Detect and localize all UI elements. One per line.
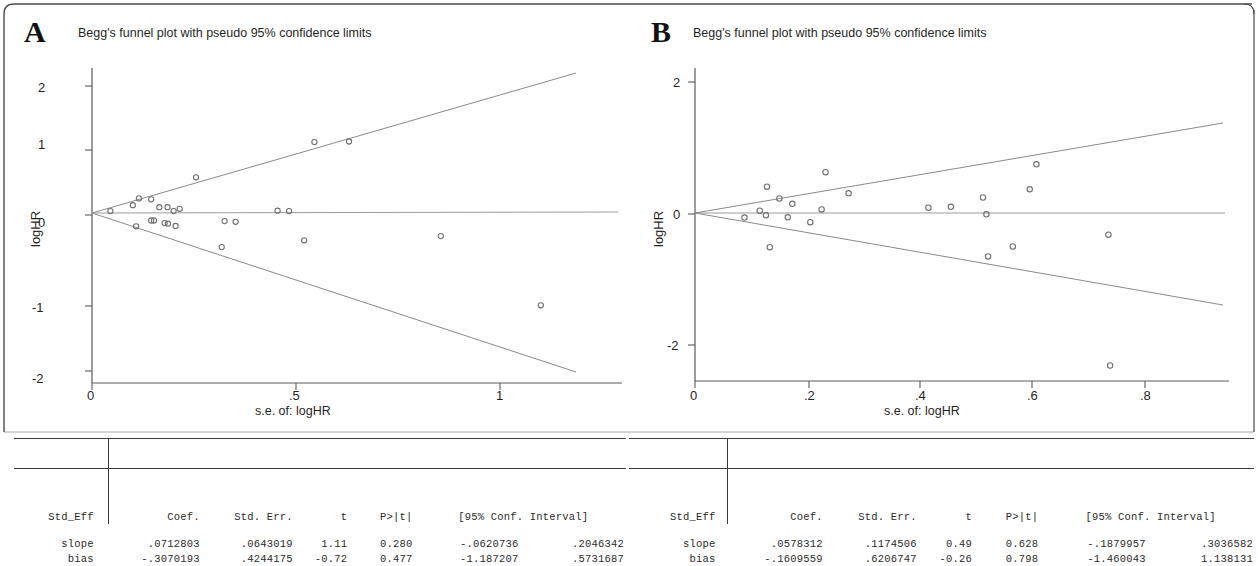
table-b-col-std-eff: Std_Eff <box>629 510 724 525</box>
data-point <box>233 219 238 224</box>
table-a-col-coef: Coef. <box>103 510 205 525</box>
table-a-r0-cihigh: .2046342 <box>524 537 629 552</box>
data-point <box>149 197 154 202</box>
table-a-r0-cilow: -.0620736 <box>418 537 524 552</box>
table-b-r1-coef: -.1609559 <box>724 552 827 566</box>
data-point <box>193 175 198 180</box>
data-point <box>438 234 443 239</box>
table-b: Std_Eff Coef. Std. Err. t P>|t| [95% Con… <box>629 438 1258 566</box>
data-point <box>808 220 813 225</box>
data-point <box>302 238 307 243</box>
table-b-midrule <box>629 468 1254 469</box>
panel-a: A Begg's funnel plot with pseudo 95% con… <box>0 0 629 525</box>
table-a-r1-cihigh: .5731687 <box>524 552 629 566</box>
table-b-col-p: P>|t| <box>977 510 1043 525</box>
table-row: bias -.1609559 .6206747 -0.26 0.798 -1.4… <box>629 552 1258 566</box>
table-b-col-ci: [95% Conf. Interval] <box>1043 510 1258 525</box>
data-point <box>785 215 790 220</box>
data-point <box>222 219 227 224</box>
table-b-r0-coef: .0578312 <box>724 537 827 552</box>
data-point <box>742 215 747 220</box>
table-b-r1-label: bias <box>629 552 724 566</box>
data-point <box>790 201 795 206</box>
table-a-col-t: t <box>298 510 353 525</box>
table-a-r0-stderr: .0643019 <box>205 537 298 552</box>
table-a-r0-coef: .0712803 <box>103 537 205 552</box>
table-a-midrule <box>14 468 626 469</box>
table-a-vertrule <box>108 439 109 524</box>
table-a-r1-coef: -.3070193 <box>103 552 205 566</box>
table-a-r1-label: bias <box>0 552 103 566</box>
data-point <box>157 205 162 210</box>
data-point <box>134 224 139 229</box>
data-point <box>312 140 317 145</box>
data-point <box>173 223 178 228</box>
data-point <box>767 245 772 250</box>
data-point <box>1027 187 1032 192</box>
table-a-col-ci: [95% Conf. Interval] <box>418 510 629 525</box>
table-b-r0-p: 0.628 <box>977 537 1043 552</box>
table-a-r1-cilow: -1.187207 <box>418 552 524 566</box>
table-b-vertrule <box>727 439 728 524</box>
table-a-col-p: P>|t| <box>352 510 417 525</box>
table-a-toprule <box>14 438 626 439</box>
table-a-r0-label: slope <box>0 537 103 552</box>
data-point <box>985 254 990 259</box>
data-point <box>948 204 953 209</box>
panel-b-markers <box>742 162 1113 369</box>
data-point <box>984 212 989 217</box>
table-row: slope .0712803 .0643019 1.11 0.280 -.062… <box>0 537 629 552</box>
data-point <box>538 303 543 308</box>
data-point <box>1107 363 1112 368</box>
table-b-col-std-err: Std. Err. <box>828 510 922 525</box>
data-point <box>819 207 824 212</box>
data-point <box>823 170 828 175</box>
table-b-r1-stderr: .6206747 <box>828 552 922 566</box>
table-row: bias -.3070193 .4244175 -0.72 0.477 -1.1… <box>0 552 629 566</box>
data-point <box>980 195 985 200</box>
table-a-header-row: Std_Eff Coef. Std. Err. t P>|t| [95% Con… <box>0 510 629 525</box>
table-b-r1-cihigh: 1.138131 <box>1151 552 1258 566</box>
table-b-spacer <box>629 525 1258 537</box>
data-point <box>926 205 931 210</box>
table-a-col-std-eff: Std_Eff <box>0 510 103 525</box>
table-row: slope .0578312 .1174506 0.49 0.628 -.187… <box>629 537 1258 552</box>
table-b-r1-p: 0.798 <box>977 552 1043 566</box>
data-point <box>1034 162 1039 167</box>
table-b-r0-cihigh: .3036582 <box>1151 537 1258 552</box>
table-b-col-coef: Coef. <box>724 510 827 525</box>
data-point <box>177 206 182 211</box>
table-a-grid: Std_Eff Coef. Std. Err. t P>|t| [95% Con… <box>0 510 629 566</box>
data-point <box>1106 232 1111 237</box>
table-b-header-row: Std_Eff Coef. Std. Err. t P>|t| [95% Con… <box>629 510 1258 525</box>
data-point <box>764 184 769 189</box>
data-point <box>346 139 351 144</box>
table-b-r0-cilow: -.1879957 <box>1043 537 1151 552</box>
table-a-r0-p: 0.280 <box>352 537 417 552</box>
data-point <box>165 221 170 226</box>
table-b-toprule <box>629 438 1254 439</box>
table-a-spacer <box>0 525 629 537</box>
table-b-r0-stderr: .1174506 <box>828 537 922 552</box>
table-a: Std_Eff Coef. Std. Err. t P>|t| [95% Con… <box>0 438 629 566</box>
panel-a-markers <box>108 139 544 308</box>
table-b-r0-t: 0.49 <box>922 537 977 552</box>
table-a-r1-p: 0.477 <box>352 552 417 566</box>
table-b-r1-t: -0.26 <box>922 552 977 566</box>
panel-b: B Begg's funnel plot with pseudo 95% con… <box>629 0 1258 525</box>
table-b-col-t: t <box>922 510 977 525</box>
data-point <box>846 191 851 196</box>
data-point <box>219 245 224 250</box>
table-b-r0-label: slope <box>629 537 724 552</box>
panel-a-plot <box>0 0 629 440</box>
table-a-r1-stderr: .4244175 <box>205 552 298 566</box>
table-a-r0-t: 1.11 <box>298 537 353 552</box>
data-point <box>1010 244 1015 249</box>
table-a-r1-t: -0.72 <box>298 552 353 566</box>
table-a-col-std-err: Std. Err. <box>205 510 298 525</box>
table-b-grid: Std_Eff Coef. Std. Err. t P>|t| [95% Con… <box>629 510 1258 566</box>
panel-b-plot <box>629 0 1258 440</box>
data-point <box>165 205 170 210</box>
data-point <box>130 203 135 208</box>
